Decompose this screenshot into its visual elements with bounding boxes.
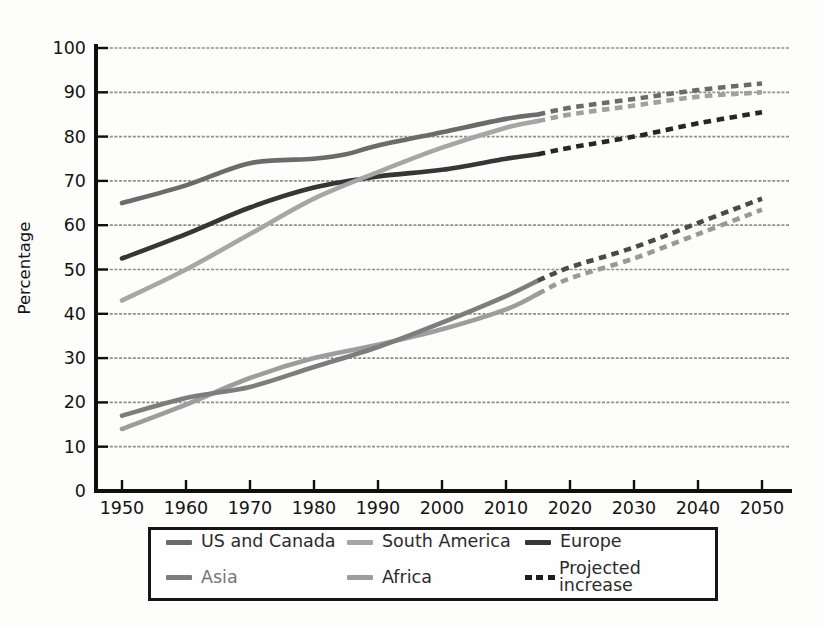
y-tick-label: 90 xyxy=(64,82,86,102)
legend-item-us-and-canada: US and Canada xyxy=(166,533,347,551)
series-projection-asia xyxy=(538,199,762,281)
scanned-chart-page: Percentage 01020304050607080901001950196… xyxy=(0,0,824,627)
y-tick-label: 50 xyxy=(64,260,86,280)
x-tick-label: 1950 xyxy=(100,498,145,518)
x-tick-label: 2050 xyxy=(740,498,785,518)
legend-label: South America xyxy=(382,533,511,551)
series-projection-africa xyxy=(538,210,762,294)
chart-legend: US and Canada South America Europe Asia … xyxy=(148,527,718,601)
legend-label: Asia xyxy=(201,569,238,587)
urbanisation-line-chart: Percentage 01020304050607080901001950196… xyxy=(0,0,824,524)
y-tick-label: 40 xyxy=(64,304,86,324)
y-tick-label: 60 xyxy=(64,215,86,235)
x-tick-label: 2000 xyxy=(420,498,465,518)
plot-area: 0102030405060708090100195019601970198019… xyxy=(53,38,792,518)
legend-item-africa: Africa xyxy=(347,560,525,595)
legend-item-asia: Asia xyxy=(166,560,347,595)
y-tick-label: 10 xyxy=(64,437,86,457)
x-tick-label: 1980 xyxy=(292,498,337,518)
legend-item-south-america: South America xyxy=(347,533,525,551)
series-projection-us-and-canada xyxy=(538,83,762,114)
x-tick-label: 1970 xyxy=(228,498,273,518)
series-line-south-america xyxy=(122,121,538,300)
series-line-europe xyxy=(122,154,538,258)
legend-label: Projected increase xyxy=(559,560,715,595)
dashed-line-swatch-icon xyxy=(525,575,556,581)
line-swatch-icon xyxy=(166,575,192,580)
x-tick-label: 2020 xyxy=(548,498,593,518)
legend-item-projected-increase: Projected increase xyxy=(525,560,715,595)
legend-item-europe: Europe xyxy=(525,533,715,551)
x-tick-label: 2010 xyxy=(484,498,529,518)
x-tick-label: 1990 xyxy=(356,498,401,518)
y-tick-label: 0 xyxy=(75,481,86,501)
line-swatch-icon xyxy=(166,540,192,545)
y-tick-label: 70 xyxy=(64,171,86,191)
series-projection-europe xyxy=(538,112,762,154)
legend-label: Africa xyxy=(382,569,432,587)
series-line-asia xyxy=(122,281,538,416)
y-axis-title: Percentage xyxy=(15,222,34,315)
y-tick-label: 100 xyxy=(53,38,86,58)
y-tick-label: 80 xyxy=(64,127,86,147)
x-tick-label: 1960 xyxy=(164,498,209,518)
line-swatch-icon xyxy=(347,575,373,580)
x-tick-label: 2030 xyxy=(612,498,657,518)
line-swatch-icon xyxy=(525,540,551,545)
legend-label: Europe xyxy=(560,533,622,551)
legend-label: US and Canada xyxy=(201,533,336,551)
y-tick-label: 30 xyxy=(64,348,86,368)
x-tick-label: 2040 xyxy=(676,498,721,518)
series-projection-south-america xyxy=(538,92,762,121)
y-tick-label: 20 xyxy=(64,392,86,412)
line-swatch-icon xyxy=(347,540,373,545)
